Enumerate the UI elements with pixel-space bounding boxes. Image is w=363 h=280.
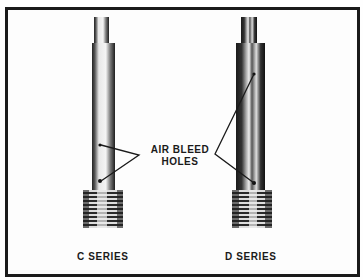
callout-line-2: HOLES xyxy=(140,156,220,168)
d-series-label: D SERIES xyxy=(225,251,276,262)
c-series-jet xyxy=(83,17,123,228)
figure-illustration xyxy=(0,0,363,280)
c-series-label: C SERIES xyxy=(77,251,128,262)
d-series-jet xyxy=(232,17,272,228)
callout-line-1: AIR BLEED xyxy=(140,144,220,156)
air-bleed-holes-callout: AIR BLEED HOLES xyxy=(140,144,220,168)
